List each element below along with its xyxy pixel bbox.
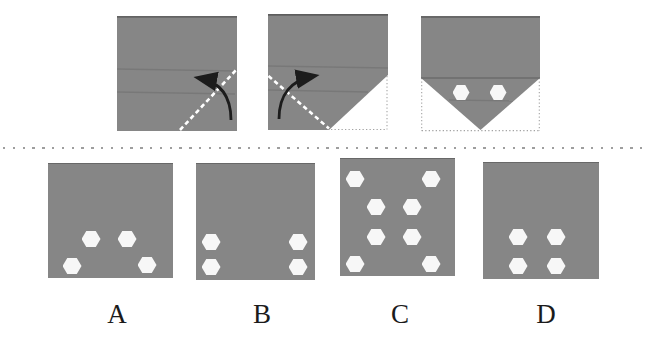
- fold-step-1-diagram: [117, 16, 237, 131]
- punched-hole: [509, 258, 528, 274]
- answer-label-a[interactable]: A: [107, 301, 127, 328]
- punched-holes-layer: [421, 16, 540, 132]
- answer-label-c[interactable]: C: [391, 301, 409, 328]
- punched-hole: [422, 256, 441, 272]
- answer-option-d-square[interactable]: [483, 162, 599, 279]
- punched-hole: [490, 85, 507, 100]
- punched-hole: [346, 171, 365, 187]
- punched-hole: [403, 199, 422, 215]
- punched-hole: [346, 256, 365, 272]
- punched-hole: [547, 258, 566, 274]
- fold-step-2-diagram: [268, 14, 388, 131]
- answer-option-b-square[interactable]: [196, 163, 315, 280]
- paper-folding-question: A B C D: [0, 0, 648, 349]
- question-answer-divider: [3, 147, 645, 149]
- punched-hole: [118, 231, 137, 247]
- punched-hole: [453, 85, 470, 100]
- punched-hole: [202, 259, 221, 275]
- answer-option-c-square[interactable]: [340, 158, 455, 276]
- answer-label-d[interactable]: D: [536, 301, 556, 328]
- punched-hole: [422, 171, 441, 187]
- answer-label-b[interactable]: B: [253, 301, 271, 328]
- punched-hole: [82, 231, 101, 247]
- punched-hole: [509, 229, 528, 245]
- punched-hole: [289, 259, 308, 275]
- fold-step-3-panel: [421, 16, 540, 132]
- punched-hole: [547, 229, 566, 245]
- punched-hole: [403, 229, 422, 245]
- punched-hole: [367, 199, 386, 215]
- punched-hole: [367, 229, 386, 245]
- punched-hole: [202, 234, 221, 250]
- paper-folded-once: [268, 14, 388, 130]
- paper-square: [117, 16, 237, 131]
- punched-hole: [289, 234, 308, 250]
- punched-hole: [138, 257, 157, 273]
- fold-step-2-panel: [268, 14, 388, 131]
- answer-option-a-square[interactable]: [48, 163, 173, 278]
- punched-hole: [63, 258, 82, 274]
- fold-step-1-panel: [117, 16, 237, 131]
